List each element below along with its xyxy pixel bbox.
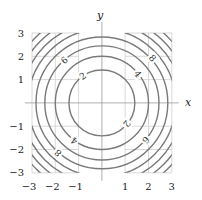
y-tick-label: −3 [9,167,24,178]
y-tick-label: 2 [18,51,24,62]
x-axis-label: x [185,96,192,109]
x-tick-label: 3 [169,181,175,192]
x-tick-label: 1 [122,181,128,192]
y-tick-label: −2 [9,144,24,155]
x-tick-label: −2 [45,181,60,192]
x-tick-label: −3 [22,181,37,192]
y-tick-label: 1 [18,74,24,85]
contour-label: 4 [131,67,145,81]
x-tick-label: −1 [68,181,83,192]
x-tick-label: 2 [145,181,151,192]
contour-plot: 62842648 −3−2−1123321−1−2−3 x y [0,0,202,200]
y-tick-label: −1 [9,121,24,132]
contour-labels: 62842648 [51,51,160,160]
y-tick-label: 3 [18,28,24,39]
y-axis-label: y [96,9,104,22]
contour-label: 8 [146,51,160,65]
